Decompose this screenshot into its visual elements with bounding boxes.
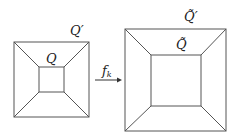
right-diagonal [125,29,151,55]
right-inner-square [151,55,201,106]
left-diagonal [64,92,89,117]
left-outer-label: Q′ [70,23,84,38]
right-outer-label: Q̃′ [184,9,198,24]
arrow-label: fk [101,63,112,79]
left-diagonal [14,42,39,67]
right-inner-label: Q̃ [176,37,187,52]
diagram-canvas: Q′ Q fk Q̃′ Q̃ [0,0,237,138]
left-inner-label: Q [46,51,57,66]
right-diagonal [201,106,226,131]
left-diagonal [64,42,89,67]
right-diagonal [125,106,151,131]
right-diagonal [201,29,226,55]
left-inner-square [39,67,64,92]
left-diagonal [14,92,39,117]
arrow-head-icon [117,78,122,83]
